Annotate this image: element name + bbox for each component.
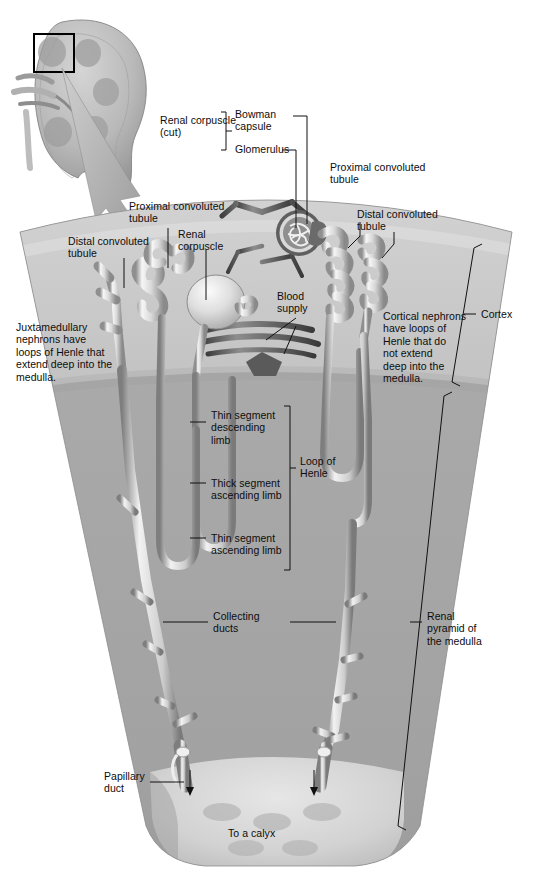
label-glomerulus: Glomerulus — [235, 143, 289, 155]
label-thin-segment-ascending-limb: Thin segment ascending limb — [211, 532, 282, 557]
label-proximal-convoluted-tubule-right: Proximal convoluted tubule — [330, 161, 426, 186]
label-distal-convoluted-tubule-left: Distal convoluted tubule — [68, 235, 149, 260]
label-papillary-duct: Papillary duct — [104, 770, 145, 795]
kidney-inset — [14, 20, 146, 232]
label-renal-corpuscle-left: Renal corpuscle — [178, 228, 223, 253]
label-cortex: Cortex — [481, 308, 512, 320]
label-thin-segment-descending-limb: Thin segment descending limb — [211, 409, 275, 446]
label-proximal-convoluted-tubule-left: Proximal convoluted tubule — [129, 200, 225, 225]
label-thick-segment-ascending-limb: Thick segment ascending limb — [211, 477, 282, 502]
label-loop-of-henle: Loop of Henle — [300, 455, 335, 480]
label-blood-supply: Blood supply — [277, 290, 308, 315]
label-cortical-note: Cortical nephrons have loops of Henle th… — [383, 310, 466, 384]
label-bowman-capsule: Bowman capsule — [235, 108, 276, 133]
label-distal-convoluted-tubule-right: Distal convoluted tubule — [357, 208, 438, 233]
nephron-diagram: Renal corpuscle (cut) Bowman capsule Glo… — [0, 0, 541, 872]
label-juxtamedullary-note: Juxtamedullary nephrons have loops of He… — [16, 321, 112, 383]
label-renal-corpuscle-cut: Renal corpuscle (cut) — [160, 114, 236, 139]
label-collecting-ducts: Collecting ducts — [213, 610, 260, 635]
label-renal-pyramid-of-the-medulla: Renal pyramid of the medulla — [427, 610, 482, 647]
label-to-a-calyx: To a calyx — [228, 827, 275, 839]
